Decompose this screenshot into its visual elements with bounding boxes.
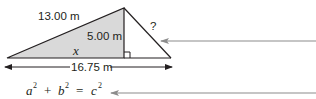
eq-b: b	[58, 83, 65, 98]
eq-a-exp: 2	[33, 81, 37, 90]
total-base-label: 16.75 m	[71, 61, 113, 73]
eq-equals: =	[76, 83, 83, 98]
right-angle-marker	[124, 52, 130, 58]
eq-b-exp: 2	[65, 81, 69, 90]
eq-plus: +	[44, 83, 51, 98]
pythagorean-diagram: 13.00 m 5.00 m x ? 16.75 m a 2 + b 2 = c…	[0, 0, 316, 99]
pythagorean-equation: a 2 + b 2 = c 2	[26, 81, 102, 98]
eq-c-exp: 2	[98, 81, 102, 90]
unknown-hypotenuse-label: ?	[150, 20, 156, 32]
eq-a: a	[26, 83, 33, 98]
right-hypotenuse	[124, 8, 171, 58]
base-segment-label: x	[72, 43, 79, 58]
height-label: 5.00 m	[87, 30, 122, 42]
eq-c: c	[91, 83, 97, 98]
hypotenuse-left-label: 13.00 m	[38, 10, 80, 22]
